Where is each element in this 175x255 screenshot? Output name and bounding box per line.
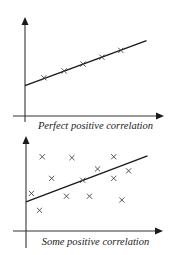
x-marker-icon (119, 197, 124, 202)
x-marker-icon (69, 155, 74, 160)
trend-line (26, 156, 148, 202)
trend-line-segment (26, 156, 148, 202)
chart-some-positive-correlation: Some positive correlation (0, 0, 175, 255)
data-points (29, 154, 131, 213)
x-marker-icon (40, 154, 45, 159)
x-marker-icon (126, 168, 131, 173)
x-axis (13, 228, 163, 235)
x-marker-icon (111, 154, 116, 159)
x-axis-arrow-icon (155, 228, 163, 235)
x-marker-icon (49, 176, 54, 181)
x-marker-icon (37, 208, 42, 213)
x-marker-icon (64, 194, 69, 199)
x-marker-icon (95, 166, 100, 171)
scatter-plot-bottom (0, 0, 175, 255)
x-marker-icon (111, 176, 116, 181)
y-axis-arrow-icon (23, 136, 30, 144)
x-marker-icon (87, 194, 92, 199)
caption-bottom: Some positive correlation (0, 236, 175, 248)
x-marker-icon (29, 191, 34, 196)
